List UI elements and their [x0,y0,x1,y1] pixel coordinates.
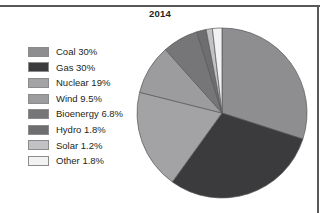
pie-chart [136,27,312,213]
legend-item-label: Other 1.8% [56,156,104,166]
legend-item[interactable]: Wind 9.5% [28,91,143,107]
legend-item-label: Gas 30% [56,63,95,73]
legend-item[interactable]: Nuclear 19% [28,75,143,91]
legend-swatch-icon [28,156,49,166]
legend-item[interactable]: Bioenergy 6.8% [28,106,143,122]
legend-swatch-icon [28,140,49,150]
legend-item-label: Solar 1.2% [56,141,102,151]
legend-item[interactable]: Solar 1.2% [28,138,143,154]
figure-top-rule [0,5,320,7]
page-title: 2014 [130,8,190,19]
legend-swatch-icon [28,94,49,104]
legend-item[interactable]: Gas 30% [28,60,143,76]
legend-item[interactable]: Other 1.8% [28,153,143,169]
legend-item[interactable]: Coal 30% [28,44,143,60]
legend-swatch-icon [28,78,49,88]
pie-chart-figure: 2014 Coal 30%Gas 30%Nuclear 19%Wind 9.5%… [0,0,328,213]
pie-chart-svg [136,27,312,213]
legend-swatch-icon [28,47,49,57]
figure-right-rule [317,5,319,213]
chart-legend: Coal 30%Gas 30%Nuclear 19%Wind 9.5%Bioen… [28,44,143,169]
legend-item-label: Nuclear 19% [56,78,110,88]
legend-item[interactable]: Hydro 1.8% [28,122,143,138]
legend-swatch-icon [28,62,49,72]
pie-slice-group [137,28,307,198]
legend-swatch-icon [28,125,49,135]
legend-item-label: Bioenergy 6.8% [56,109,123,119]
legend-swatch-icon [28,109,49,119]
legend-item-label: Hydro 1.8% [56,125,106,135]
legend-item-label: Wind 9.5% [56,94,102,104]
legend-item-label: Coal 30% [56,47,97,57]
